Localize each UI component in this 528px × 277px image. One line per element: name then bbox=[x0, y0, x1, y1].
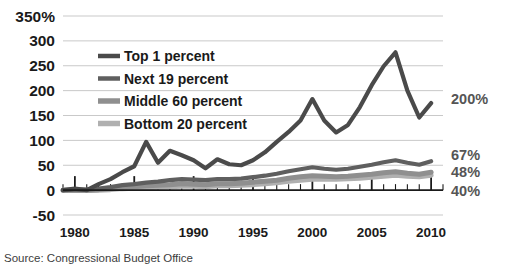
x-tick-label: 1980 bbox=[60, 225, 90, 240]
x-tick-label: 1985 bbox=[119, 225, 150, 240]
x-axis-tick-labels: 1980198519901995200020052010 bbox=[60, 225, 446, 240]
source-note: Source: Congressional Budget Office bbox=[4, 252, 193, 264]
y-tick-label: 350% bbox=[15, 8, 55, 25]
end-label-top-1-percent: 200% bbox=[451, 91, 488, 107]
y-tick-label: 150 bbox=[29, 107, 55, 124]
legend-label-top-1-percent: Top 1 percent bbox=[124, 48, 215, 64]
legend-label-bottom-20-percent: Bottom 20 percent bbox=[124, 116, 247, 132]
y-tick-label: 100 bbox=[29, 132, 55, 149]
y-tick-label: 0 bbox=[46, 182, 55, 199]
y-tick-label: -50 bbox=[33, 207, 55, 224]
x-tick-label: 2010 bbox=[416, 225, 446, 240]
legend-label-next-19-percent: Next 19 percent bbox=[124, 71, 229, 87]
series-end-labels: 200%67%48%40% bbox=[451, 91, 488, 199]
x-tick-label: 1990 bbox=[179, 225, 209, 240]
chart-figure: 350%300250200150100500-50 19801985199019… bbox=[0, 0, 528, 277]
x-tick-label: 2000 bbox=[297, 225, 327, 240]
y-tick-label: 50 bbox=[38, 157, 55, 174]
end-label-middle-60-percent: 48% bbox=[451, 164, 480, 180]
y-tick-label: 200 bbox=[29, 82, 55, 99]
x-tick-label: 2005 bbox=[357, 225, 388, 240]
y-tick-label: 250 bbox=[29, 57, 55, 74]
income-growth-line-chart: 350%300250200150100500-50 19801985199019… bbox=[0, 0, 528, 277]
x-tick-label: 1995 bbox=[238, 225, 269, 240]
y-axis-tick-labels: 350%300250200150100500-50 bbox=[15, 8, 55, 224]
end-label-bottom-20-percent: 40% bbox=[451, 183, 480, 199]
legend-label-middle-60-percent: Middle 60 percent bbox=[124, 93, 243, 109]
chart-legend: Top 1 percentNext 19 percentMiddle 60 pe… bbox=[98, 48, 247, 132]
end-label-next-19-percent: 67% bbox=[451, 147, 480, 163]
y-tick-label: 300 bbox=[29, 32, 55, 49]
